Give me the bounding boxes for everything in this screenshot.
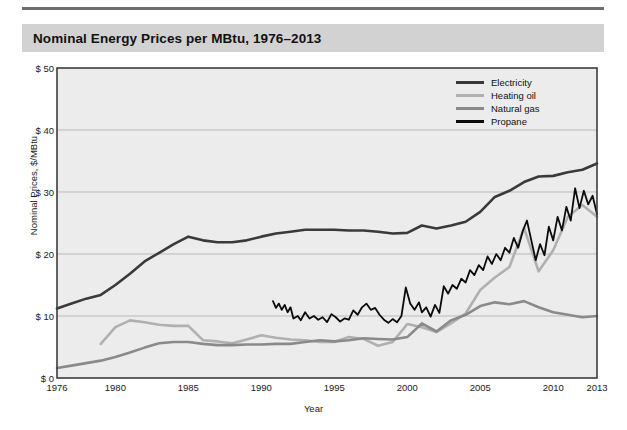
legend-swatch-icon xyxy=(456,81,484,84)
x-tick-label: 1976 xyxy=(46,382,67,393)
legend-swatch-icon xyxy=(456,107,484,110)
x-tick-label: 2010 xyxy=(543,382,564,393)
x-tick-label: 2013 xyxy=(586,382,607,393)
y-tick-label: $ 10 xyxy=(8,311,54,322)
legend-label: Electricity xyxy=(491,76,532,89)
y-axis-label: Nominal Prices, $/MBtu xyxy=(28,106,39,266)
x-tick-label: 1990 xyxy=(251,382,272,393)
x-tick-label: 2000 xyxy=(397,382,418,393)
legend-item: Heating oil xyxy=(456,89,588,102)
legend-label: Propane xyxy=(491,115,527,128)
chart-legend: ElectricityHeating oilNatural gasPropane xyxy=(456,74,588,130)
legend-label: Natural gas xyxy=(491,102,540,115)
x-axis-label: Year xyxy=(0,403,627,414)
legend-label: Heating oil xyxy=(491,89,536,102)
x-tick-label: 1980 xyxy=(105,382,126,393)
x-tick-label: 1995 xyxy=(324,382,345,393)
legend-swatch-icon xyxy=(456,120,484,123)
figure-root: Nominal Energy Prices per MBtu, 1976–201… xyxy=(0,0,627,430)
legend-item: Propane xyxy=(456,115,588,128)
legend-item: Natural gas xyxy=(456,102,588,115)
chart-svg xyxy=(0,0,627,430)
x-tick-label: 1985 xyxy=(178,382,199,393)
y-tick-label: $ 50 xyxy=(8,63,54,74)
x-tick-label: 2005 xyxy=(470,382,491,393)
chart-container: $ 0$ 10$ 20$ 30$ 40$ 50 1976198019851990… xyxy=(0,0,627,430)
legend-swatch-icon xyxy=(456,94,484,97)
legend-item: Electricity xyxy=(456,76,588,89)
